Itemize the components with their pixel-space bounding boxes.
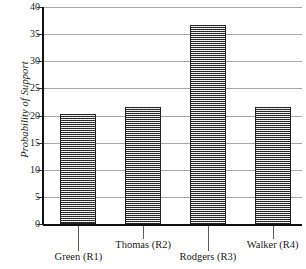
- x-tick-mark: [273, 226, 274, 239]
- bar: [60, 114, 96, 224]
- plot-area: [43, 7, 302, 224]
- y-tick-mark: [37, 7, 42, 8]
- y-tick-label: 25: [10, 83, 40, 93]
- y-tick-label: 0: [10, 219, 40, 229]
- y-tick-label: 20: [10, 111, 40, 121]
- x-axis-category-label: Thomas (R2): [98, 239, 188, 250]
- y-tick-mark: [37, 143, 42, 144]
- x-tick-mark: [208, 226, 209, 251]
- gridline: [43, 7, 302, 8]
- bar-chart: Probability of Support 4035302520151050 …: [0, 0, 306, 269]
- gridline: [43, 88, 302, 89]
- y-tick-mark: [37, 61, 42, 62]
- bar: [255, 107, 291, 224]
- y-tick-label: 15: [10, 138, 40, 148]
- bar: [125, 107, 161, 224]
- y-axis-line: [42, 7, 44, 225]
- bar: [190, 25, 226, 224]
- gridline: [43, 34, 302, 35]
- y-tick-label: 40: [10, 2, 40, 12]
- y-tick-label: 10: [10, 165, 40, 175]
- y-tick-mark: [37, 197, 42, 198]
- x-tick-mark: [143, 226, 144, 239]
- y-tick-mark: [37, 170, 42, 171]
- y-tick-mark: [37, 224, 42, 225]
- y-tick-label: 35: [10, 29, 40, 39]
- x-tick-mark: [78, 226, 79, 251]
- x-axis-category-label: Rodgers (R3): [163, 251, 253, 262]
- y-tick-mark: [37, 116, 42, 117]
- y-tick-mark: [37, 88, 42, 89]
- x-axis-category-label: Green (R1): [33, 251, 123, 262]
- x-axis-category-label: Walker (R4): [228, 239, 306, 250]
- gridline: [43, 61, 302, 62]
- x-axis-line: [43, 224, 302, 226]
- y-tick-label: 30: [10, 56, 40, 66]
- y-tick-label: 5: [10, 192, 40, 202]
- y-tick-mark: [37, 34, 42, 35]
